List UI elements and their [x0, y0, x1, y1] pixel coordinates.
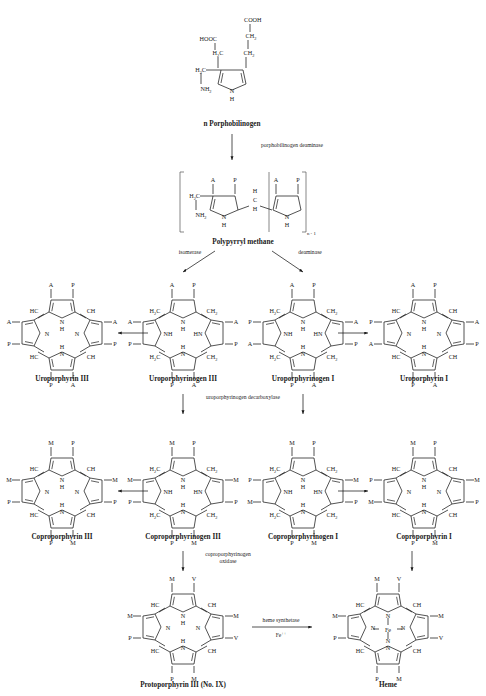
double-bond [71, 517, 73, 525]
inner-n-left: N [371, 624, 376, 631]
bond-meso [321, 346, 331, 352]
bond-meso [75, 352, 86, 358]
bridge-lower-left: H2C [270, 511, 281, 520]
substituent-top-right: V [397, 575, 402, 582]
inner-n-top: N [181, 476, 186, 483]
caption-coproporphyrinogen-iii: Coproporphyrinogen III [145, 533, 221, 541]
bond-meso [400, 510, 411, 516]
bond-meso [360, 640, 370, 646]
substituent-right-upper: A [234, 318, 239, 325]
pathway-diagram: N H H2C NH2 H2C HOOC CH2 CH2 COOH n Porp… [0, 0, 486, 696]
double-bond [414, 461, 416, 469]
bond-meso [275, 346, 285, 352]
bridge-lower-right: CH2 [327, 353, 338, 362]
double-bond [453, 481, 461, 483]
inner-n-bottom: N [181, 350, 186, 357]
double-bond [192, 653, 194, 661]
bridge-h-bottom: H [253, 205, 258, 212]
bridge-upper-left: H2C [270, 465, 281, 474]
structure-coproporphyrin-i: MPNHPMHNPMNMPNHCCHHCCH [368, 439, 480, 546]
bond-meso [159, 510, 170, 516]
caption-heme: Heme [379, 681, 397, 689]
double-bond [173, 359, 175, 367]
double-bond [387, 342, 395, 344]
double-bond [414, 303, 416, 311]
substituent-top-right: P [312, 281, 316, 288]
enzyme-heme-synthetase: heme synthetase [263, 617, 300, 623]
bridge-lower-right: CH [449, 353, 458, 360]
inner-h-bottom: H [60, 343, 65, 350]
pyrrole-top [411, 300, 437, 318]
double-bond [52, 359, 54, 367]
bond-meso [34, 314, 44, 320]
bond-meso [201, 640, 211, 646]
substituent-left-lower: P [7, 340, 11, 347]
pyrrole-top [49, 300, 75, 318]
pyrrole-top [375, 594, 401, 612]
inner-h-top: H [181, 325, 186, 332]
double-bond [433, 303, 435, 311]
bond-meso [201, 314, 211, 320]
pyrrole-left [263, 320, 281, 346]
substituent-top-right: P [71, 439, 75, 446]
inner-h-top: H [60, 325, 65, 332]
atom-ch2-upper-right: CH2 [244, 49, 255, 58]
enzyme-porphobilinogen-deaminase: porphobilinogen deaminase [261, 142, 323, 148]
substituent-right-upper: M [112, 476, 118, 483]
inner-h-bottom: H [181, 501, 186, 508]
bridge-upper-left: HC [30, 465, 39, 472]
bond-meso [34, 504, 44, 510]
atom-ch2-upper-right-2: CH2 [246, 32, 257, 41]
bridge-lower-left: HC [151, 647, 160, 654]
double-bond [414, 359, 416, 367]
inner-n-bottom: N [422, 350, 427, 357]
bond-meso [360, 608, 370, 614]
substituent-right-lower: P [234, 340, 238, 347]
substituent-top-right: P [312, 439, 316, 446]
inner-n-top: N [181, 318, 186, 325]
inner-n-left: NH [164, 488, 173, 495]
inner-h-bottom: H [422, 343, 427, 350]
bond-meso [316, 352, 327, 358]
ring-right-P: P [296, 176, 300, 183]
inner-n-right: N [196, 624, 201, 631]
bridge-lower-right: CH [208, 647, 217, 654]
bond-meso [400, 312, 411, 318]
bond-meso [159, 312, 170, 318]
substituent-left-upper: P [248, 476, 252, 483]
substituent-left-lower: P [128, 340, 132, 347]
substituent-right-upper: M [474, 476, 480, 483]
bond-meso [155, 640, 165, 646]
double-bond [71, 461, 73, 469]
bridge-upper-right: CH2 [207, 465, 218, 474]
double-bond [91, 342, 99, 344]
bond-meso [196, 312, 207, 318]
caption-uroporphyrin-iii: Uroporphyrin III [35, 375, 89, 383]
bond-meso [400, 470, 411, 476]
double-bond [397, 653, 399, 661]
pyrrole-right [205, 478, 223, 504]
bridge-upper-right: CH2 [207, 307, 218, 316]
substituent-bottom-right: M [396, 675, 402, 682]
atom-hooc: HOOC [199, 35, 217, 42]
double-bond [25, 481, 33, 483]
bridge-upper-right: CH [87, 307, 96, 314]
substituent-top-left: A [411, 281, 416, 288]
inner-h-bottom: H [181, 343, 186, 350]
bond-meso [155, 314, 165, 320]
substituent-top-left: A [49, 281, 54, 288]
substituent-top-left: M [289, 439, 295, 446]
double-bond [387, 500, 395, 502]
substituent-right-lower: P [113, 340, 117, 347]
inner-n-left: N [45, 330, 50, 337]
bond-meso [196, 352, 207, 358]
structure-uroporphyrin-i: APNHPAHNPANAPNHCCHHCCH [369, 281, 480, 388]
bridge-lower-left: HC [30, 511, 39, 518]
atom-h2c-upper-left: H2C [213, 49, 224, 58]
substituent-top-right: V [192, 575, 197, 582]
bond-meso [316, 312, 327, 318]
substituent-left-lower: A [248, 340, 253, 347]
bond-meso [279, 352, 290, 358]
double-bond [351, 617, 359, 619]
pyrrole-right [84, 320, 102, 346]
